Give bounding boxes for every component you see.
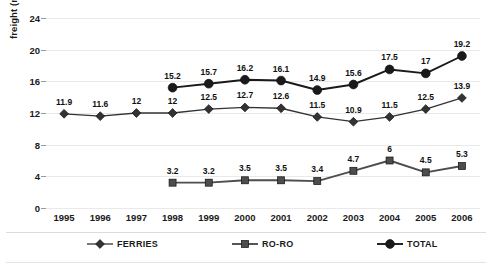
data-point-label: 12.5 xyxy=(200,92,217,102)
data-point-label: 14.9 xyxy=(309,73,326,83)
x-axis-tick-label: 2000 xyxy=(234,212,255,223)
data-point-marker xyxy=(277,104,286,113)
data-point-marker xyxy=(241,177,248,184)
data-point-marker xyxy=(385,65,394,74)
y-axis-tick-label: 4 xyxy=(35,171,40,182)
data-point-label: 11.5 xyxy=(382,100,398,110)
data-point-marker xyxy=(60,109,69,118)
data-point-label: 12.5 xyxy=(417,92,434,102)
legend-separator xyxy=(6,232,486,233)
data-point-label: 10.9 xyxy=(345,105,362,115)
chart-legend: FERRIESRO-ROTOTAL xyxy=(46,238,480,258)
legend-marker-square-icon xyxy=(231,238,259,250)
data-point-marker xyxy=(132,109,141,118)
data-point-marker xyxy=(421,105,430,114)
data-point-marker xyxy=(422,169,429,176)
data-point-marker xyxy=(204,79,213,88)
series-line-ferries xyxy=(64,98,462,122)
data-point-label: 3.4 xyxy=(311,164,323,174)
data-point-label: 3.2 xyxy=(167,166,179,176)
data-point-marker xyxy=(385,113,394,122)
x-axis-tick-label: 1995 xyxy=(54,212,75,223)
y-axis-tick-label: 20 xyxy=(29,44,40,55)
legend-item-ro-ro[interactable]: RO-RO xyxy=(231,238,294,250)
data-point-label: 13.9 xyxy=(454,81,471,91)
data-point-marker xyxy=(313,86,322,95)
data-point-label: 4.7 xyxy=(347,154,359,164)
data-point-marker xyxy=(242,241,249,248)
legend-item-ferries[interactable]: FERRIES xyxy=(86,238,158,250)
data-point-marker xyxy=(277,76,286,85)
data-point-label: 6 xyxy=(387,144,392,154)
data-point-label: 4.5 xyxy=(420,155,432,165)
data-point-marker xyxy=(458,163,465,170)
data-point-marker xyxy=(386,157,393,164)
x-axis-tick-label: 2003 xyxy=(343,212,364,223)
y-axis-tick-label: 12 xyxy=(29,108,40,119)
legend-label: TOTAL xyxy=(407,240,438,249)
legend-label: RO-RO xyxy=(262,240,294,249)
data-point-label: 12 xyxy=(132,96,141,106)
x-axis-tick-label: 1996 xyxy=(90,212,111,223)
y-axis-tick-mark xyxy=(41,208,46,209)
data-point-label: 19.2 xyxy=(454,39,471,49)
data-point-marker xyxy=(169,179,176,186)
gridline xyxy=(46,208,480,209)
plot-area: 04812162024 11.911.6121212.512.712.611.5… xyxy=(46,18,480,208)
x-axis-tick-label: 2001 xyxy=(271,212,292,223)
legend-marker-diamond-icon xyxy=(86,238,114,250)
data-point-label: 11.5 xyxy=(309,100,325,110)
data-point-label: 12.6 xyxy=(273,91,290,101)
freight-line-chart: freight (million tons) 04812162024 11.91… xyxy=(0,0,492,269)
x-axis-tick-label: 1997 xyxy=(126,212,147,223)
data-point-label: 15.2 xyxy=(164,71,181,81)
data-point-marker xyxy=(349,117,358,126)
y-axis-title-text: freight (million tons) xyxy=(8,0,19,52)
x-axis-tick-label: 2005 xyxy=(415,212,436,223)
data-point-label: 5.3 xyxy=(456,149,468,159)
y-axis-tick-label: 8 xyxy=(35,139,40,150)
x-axis-tick-label: 1999 xyxy=(198,212,219,223)
data-point-marker xyxy=(168,109,177,118)
data-point-marker xyxy=(96,240,105,249)
x-axis-tick-label: 2004 xyxy=(379,212,400,223)
data-point-label: 3.5 xyxy=(239,163,251,173)
series-layer xyxy=(46,18,480,208)
data-point-marker xyxy=(241,75,250,84)
data-point-marker xyxy=(96,112,105,121)
data-point-label: 15.7 xyxy=(200,67,217,77)
legend-item-total[interactable]: TOTAL xyxy=(376,238,438,250)
data-point-marker xyxy=(421,69,430,78)
y-axis-tick-label: 0 xyxy=(35,203,40,214)
data-point-label: 11.9 xyxy=(56,97,72,107)
data-point-label: 12 xyxy=(168,96,177,106)
y-axis-tick-label: 16 xyxy=(29,76,40,87)
data-point-marker xyxy=(168,83,177,92)
data-point-label: 17.5 xyxy=(381,52,398,62)
data-point-label: 15.6 xyxy=(345,68,362,78)
data-point-marker xyxy=(458,52,467,61)
data-point-marker xyxy=(241,103,250,112)
data-point-marker xyxy=(278,177,285,184)
y-axis-title: freight (million tons) xyxy=(8,0,19,52)
data-point-marker xyxy=(350,167,357,174)
legend-bottom-separator xyxy=(6,262,486,263)
data-point-marker xyxy=(204,105,213,114)
data-point-label: 16.2 xyxy=(237,63,254,73)
x-axis-ticks: 1995199619971998199920002001200220032004… xyxy=(46,212,480,228)
data-point-label: 17 xyxy=(421,56,430,66)
data-point-marker xyxy=(313,113,322,122)
data-point-label: 3.5 xyxy=(275,163,287,173)
x-axis-tick-label: 2006 xyxy=(451,212,472,223)
data-point-label: 11.6 xyxy=(92,99,108,109)
data-point-marker xyxy=(386,240,395,249)
y-axis-tick-label: 24 xyxy=(29,13,40,24)
data-point-label: 12.7 xyxy=(237,90,254,100)
x-axis-tick-label: 1998 xyxy=(162,212,183,223)
data-point-marker xyxy=(314,178,321,185)
x-axis-tick-label: 2002 xyxy=(307,212,328,223)
data-point-marker xyxy=(458,94,467,103)
legend-label: FERRIES xyxy=(117,240,158,249)
data-point-marker xyxy=(205,179,212,186)
data-point-label: 3.2 xyxy=(203,166,215,176)
